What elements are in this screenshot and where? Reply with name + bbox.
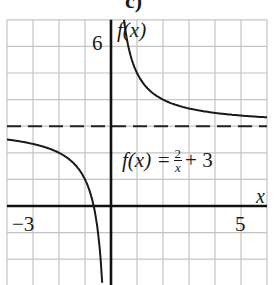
- part-label: c): [125, 0, 142, 12]
- fraction-numerator: 2: [174, 147, 183, 161]
- function-equation-label: f(x) = 2 x + 3: [122, 147, 213, 174]
- y-axis-label: f(x): [117, 20, 146, 41]
- equation-lhs: f(x) =: [122, 150, 171, 171]
- equation-rhs: + 3: [185, 150, 213, 171]
- fraction-denominator: x: [175, 161, 181, 174]
- x-axis-label: x: [256, 186, 265, 206]
- x-tick-label-neg3: −3: [12, 214, 34, 235]
- equation-fraction: 2 x: [174, 147, 183, 174]
- x-tick-label-5: 5: [235, 214, 246, 235]
- y-tick-label-6: 6: [92, 33, 103, 54]
- function-graph: [0, 0, 274, 285]
